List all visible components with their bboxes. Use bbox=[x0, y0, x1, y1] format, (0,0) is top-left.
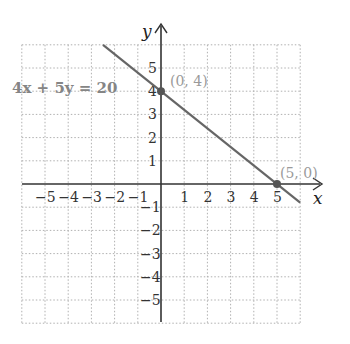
y-tick-label: 1 bbox=[148, 153, 157, 169]
y-tick-label: −1 bbox=[140, 199, 161, 215]
y-tick-label: 5 bbox=[148, 60, 157, 76]
x-tick-label: −5 bbox=[35, 189, 56, 205]
x-tick-label: −3 bbox=[81, 189, 102, 205]
x-tick-label: 5 bbox=[273, 189, 282, 205]
y-tick-label: 3 bbox=[148, 106, 157, 122]
y-tick-label: −4 bbox=[140, 269, 161, 285]
x-tick-label: 3 bbox=[227, 189, 236, 205]
x-tick-label: 2 bbox=[203, 189, 212, 205]
y-tick-label: −3 bbox=[140, 246, 161, 262]
intercept-point bbox=[273, 180, 281, 188]
y-tick-label: 2 bbox=[148, 130, 157, 146]
x-axis-label: x bbox=[313, 188, 323, 208]
x-tick-label: 4 bbox=[250, 189, 259, 205]
x-tick-label: −4 bbox=[58, 189, 79, 205]
point-label-x-intercept: (5, 0) bbox=[280, 165, 318, 181]
x-tick-label: −2 bbox=[105, 189, 126, 205]
intercept-point bbox=[157, 87, 165, 95]
y-axis-label: y bbox=[141, 21, 152, 41]
point-label-y-intercept: (0, 4) bbox=[170, 73, 208, 89]
y-tick-label: −5 bbox=[140, 292, 161, 308]
equation-label: 4x + 5y = 20 bbox=[12, 79, 117, 97]
x-tick-label: 1 bbox=[180, 189, 189, 205]
y-tick-label: −2 bbox=[140, 222, 161, 238]
coordinate-plane: x y −5−4−3−2−11234554321−1−2−3−4−5 4x + … bbox=[0, 0, 350, 344]
